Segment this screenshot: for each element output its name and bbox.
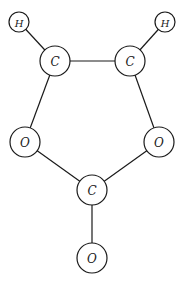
atom-node-c1: C — [40, 46, 70, 76]
atom-node-c2: C — [115, 46, 145, 76]
atom-node-h1: H — [9, 12, 29, 32]
atom-node-h2: H — [155, 12, 175, 32]
atom-label: C — [87, 184, 96, 198]
atom-label: H — [160, 18, 170, 29]
atom-label: O — [154, 136, 164, 150]
atom-label: C — [50, 55, 59, 69]
molecule-diagram: HHCCOOCO — [0, 0, 184, 282]
atom-node-c3: C — [77, 175, 107, 205]
atom-node-o3: O — [77, 243, 107, 273]
atom-node-o1: O — [10, 127, 40, 157]
atom-label: H — [14, 18, 24, 29]
atom-label: O — [20, 136, 30, 150]
atom-node-o2: O — [144, 127, 174, 157]
atom-label: O — [87, 252, 97, 266]
atom-label: C — [125, 55, 134, 69]
